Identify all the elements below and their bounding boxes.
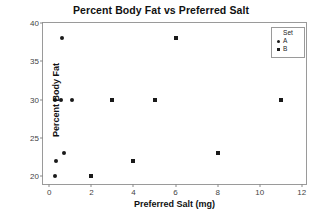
scatter-chart: Percent Body Fat vs Preferred Salt 20253…: [0, 0, 322, 218]
legend-item: A: [275, 38, 301, 46]
y-axis-tick-label: 40: [30, 19, 39, 28]
legend-marker-square-icon: [277, 48, 280, 51]
y-axis-tick-label: 35: [30, 57, 39, 66]
data-point: [89, 174, 93, 178]
x-axis-tick-mark: [49, 184, 50, 187]
x-axis-tick-label: 2: [89, 188, 93, 197]
y-axis-tick-mark: [40, 99, 43, 100]
data-point: [216, 151, 220, 155]
page-title: Percent Body Fat vs Preferred Salt: [0, 4, 322, 16]
x-axis-tick-label: 12: [297, 188, 306, 197]
legend-item-label: A: [283, 38, 287, 45]
x-axis-tick-mark: [175, 184, 176, 187]
data-point: [60, 36, 64, 40]
y-axis-tick-mark: [40, 61, 43, 62]
data-point: [131, 159, 135, 163]
x-axis-tick-label: 6: [173, 188, 177, 197]
legend: Set A B: [271, 27, 305, 58]
x-axis-tick-mark: [259, 184, 260, 187]
data-point: [70, 98, 74, 102]
y-axis-tick-label: 20: [30, 172, 39, 181]
x-axis-tick-label: 10: [255, 188, 264, 197]
x-axis-label: Preferred Salt (mg): [42, 199, 307, 209]
y-axis-tick-mark: [40, 23, 43, 24]
y-axis-tick-label: 30: [30, 95, 39, 104]
data-point: [174, 36, 178, 40]
y-axis-tick-label: 25: [30, 134, 39, 143]
y-axis-label: Percent Body Fat: [51, 63, 61, 137]
x-axis-tick-mark: [91, 184, 92, 187]
x-axis-tick-mark: [133, 184, 134, 187]
legend-marker-circle-icon: [277, 40, 280, 43]
data-point: [110, 98, 114, 102]
legend-title: Set: [275, 30, 301, 37]
y-axis-tick-mark: [40, 138, 43, 139]
y-axis-tick-mark: [40, 176, 43, 177]
data-point: [54, 159, 58, 163]
x-axis-tick-label: 8: [215, 188, 219, 197]
x-axis-tick-label: 0: [47, 188, 51, 197]
legend-item-label: B: [283, 46, 287, 53]
x-axis-tick-mark: [217, 184, 218, 187]
plot-inner: 2025303540024681012: [43, 23, 306, 184]
legend-item: B: [275, 46, 301, 54]
plot-area: 2025303540024681012 Percent Body Fat Set…: [42, 22, 307, 185]
data-point: [53, 174, 57, 178]
data-point: [153, 98, 157, 102]
data-point: [279, 98, 283, 102]
data-point: [62, 151, 66, 155]
x-axis-tick-mark: [301, 184, 302, 187]
x-axis-tick-label: 4: [131, 188, 135, 197]
